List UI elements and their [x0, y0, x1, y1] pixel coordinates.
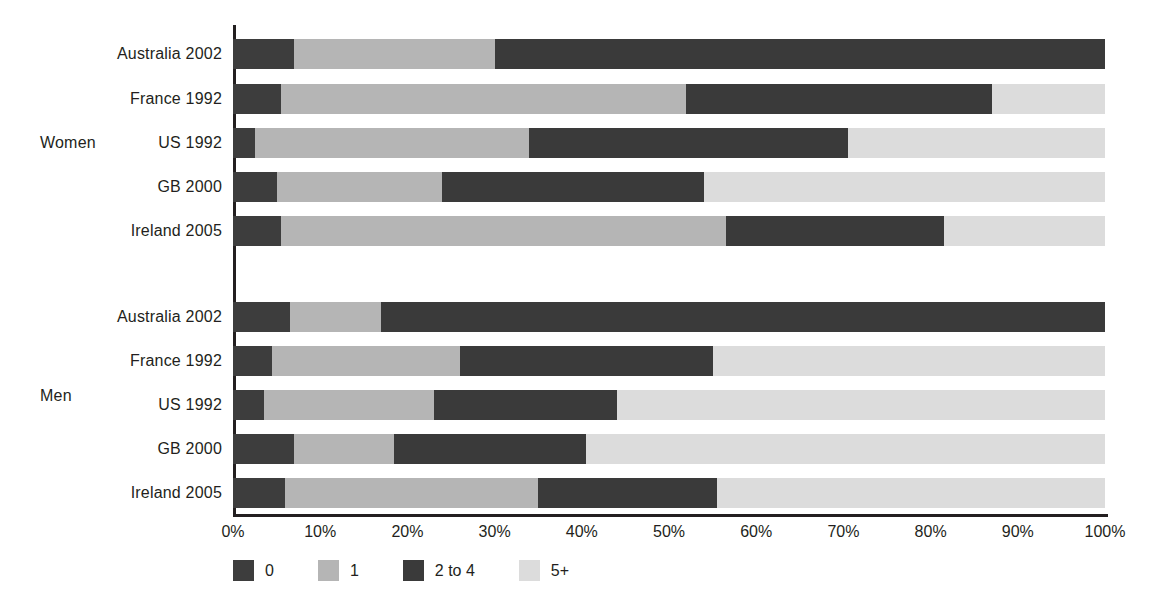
bar-row: [233, 434, 1105, 464]
bar-segment-0: [233, 478, 285, 508]
legend-swatch-icon: [233, 560, 254, 581]
x-axis-tick: 90%: [983, 523, 1053, 541]
bar-segment-0: [233, 128, 255, 158]
row-label-men-3: GB 2000: [60, 440, 222, 458]
bar-segment-1: [285, 478, 538, 508]
stacked-bar-chart: Women Men Australia 2002France 1992US 19…: [0, 0, 1168, 607]
x-axis-tick: 40%: [547, 523, 617, 541]
legend-label: 0: [265, 562, 274, 580]
row-label-women-0: Australia 2002: [60, 45, 222, 63]
chart-legend: 012 to 45+: [233, 560, 613, 581]
bar-segment-1: [281, 216, 726, 246]
x-axis-tick: 30%: [460, 523, 530, 541]
bar-segment-2-to-4: [726, 216, 944, 246]
legend-item[interactable]: 0: [233, 560, 274, 581]
bar-segment-5+: [617, 390, 1105, 420]
bar-segment-2-to-4: [538, 478, 717, 508]
bar-segment-0: [233, 346, 272, 376]
legend-item[interactable]: 1: [318, 560, 359, 581]
legend-label: 5+: [551, 562, 569, 580]
legend-swatch-icon: [519, 560, 540, 581]
legend-label: 2 to 4: [435, 562, 475, 580]
row-label-men-4: Ireland 2005: [60, 484, 222, 502]
row-label-women-4: Ireland 2005: [60, 222, 222, 240]
bar-segment-2-to-4: [442, 172, 704, 202]
bar-segment-5+: [992, 84, 1105, 114]
bar-segment-0: [233, 434, 294, 464]
x-axis-tick: 70%: [808, 523, 878, 541]
bar-segment-1: [272, 346, 459, 376]
bar-segment-2-to-4: [529, 128, 847, 158]
row-label-men-1: France 1992: [60, 352, 222, 370]
bar-row: [233, 216, 1105, 246]
bar-row: [233, 390, 1105, 420]
legend-item[interactable]: 5+: [519, 560, 569, 581]
bar-row: [233, 172, 1105, 202]
bar-segment-2-to-4: [460, 346, 713, 376]
bar-segment-1: [255, 128, 530, 158]
plot-area: [233, 25, 1105, 517]
bar-segment-1: [281, 84, 686, 114]
x-axis-tick: 100%: [1070, 523, 1140, 541]
bar-segment-5+: [713, 346, 1105, 376]
bar-row: [233, 39, 1105, 69]
bar-segment-5+: [717, 478, 1105, 508]
row-label-men-2: US 1992: [60, 396, 222, 414]
bar-row: [233, 128, 1105, 158]
legend-label: 1: [350, 562, 359, 580]
bar-segment-0: [233, 390, 264, 420]
x-axis-tick: 60%: [721, 523, 791, 541]
row-label-women-3: GB 2000: [60, 178, 222, 196]
bar-segment-5+: [944, 216, 1105, 246]
bar-row: [233, 84, 1105, 114]
row-label-women-2: US 1992: [60, 134, 222, 152]
bar-segment-5+: [704, 172, 1105, 202]
bar-segment-2-to-4: [495, 39, 1105, 69]
x-axis-tick: 80%: [896, 523, 966, 541]
bar-segment-5+: [848, 128, 1105, 158]
bar-segment-1: [264, 390, 434, 420]
legend-swatch-icon: [318, 560, 339, 581]
bar-segment-0: [233, 84, 281, 114]
bar-segment-1: [290, 302, 382, 332]
bar-segment-2-to-4: [686, 84, 991, 114]
bar-segment-0: [233, 302, 290, 332]
x-axis-tick: 0%: [198, 523, 268, 541]
bar-row: [233, 346, 1105, 376]
bar-segment-5+: [586, 434, 1105, 464]
bar-segment-0: [233, 172, 277, 202]
bar-row: [233, 302, 1105, 332]
legend-item[interactable]: 2 to 4: [403, 560, 475, 581]
bar-segment-0: [233, 39, 294, 69]
x-axis-tick: 10%: [285, 523, 355, 541]
bar-segment-1: [277, 172, 443, 202]
bar-segment-2-to-4: [381, 302, 1105, 332]
x-axis-tick: 50%: [634, 523, 704, 541]
row-label-men-0: Australia 2002: [60, 308, 222, 326]
legend-swatch-icon: [403, 560, 424, 581]
row-label-women-1: France 1992: [60, 90, 222, 108]
x-axis-tick: 20%: [372, 523, 442, 541]
bar-segment-0: [233, 216, 281, 246]
bar-segment-1: [294, 434, 394, 464]
bar-row: [233, 478, 1105, 508]
bar-segment-2-to-4: [434, 390, 617, 420]
bar-segment-2-to-4: [394, 434, 586, 464]
bar-segment-1: [294, 39, 495, 69]
